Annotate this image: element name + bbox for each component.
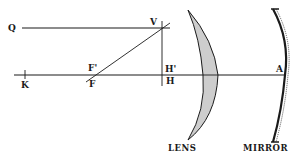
label-h: H [166, 76, 175, 86]
caption-mirror: MIRROR [243, 143, 288, 153]
label-q: Q [8, 23, 16, 33]
label-f-prime: F' [88, 63, 97, 73]
caption-lens: LENS [168, 143, 196, 153]
ray-f-v [86, 23, 170, 82]
label-f: F [89, 79, 96, 89]
label-v: V [149, 17, 158, 27]
label-h-prime: H' [165, 64, 176, 74]
label-a: A [275, 64, 284, 74]
label-k: K [21, 80, 30, 90]
optics-diagram: Q V F' F K H' H A LENS MIRROR [0, 0, 307, 166]
